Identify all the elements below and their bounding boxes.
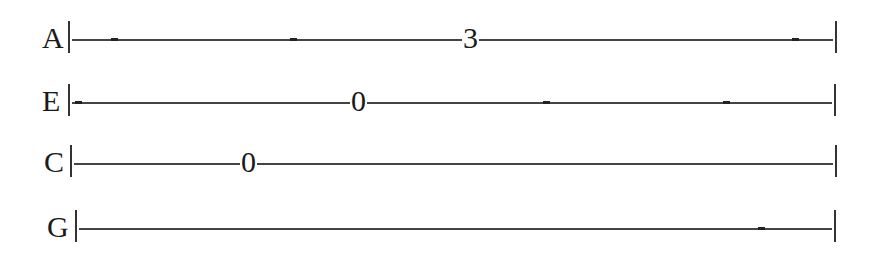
- rest-dash: [792, 38, 799, 41]
- fret-number: 3: [462, 23, 479, 53]
- string-line: [79, 228, 832, 230]
- string-e: E0: [0, 102, 874, 162]
- string-label: G: [47, 212, 69, 242]
- end-barline: [834, 210, 836, 242]
- start-barline: [68, 21, 70, 53]
- end-barline: [835, 21, 837, 53]
- fret-number: 0: [350, 86, 367, 116]
- rest-dash: [290, 38, 297, 41]
- rest-dash: [758, 227, 765, 230]
- end-barline: [835, 145, 837, 177]
- string-a: A3: [0, 39, 874, 99]
- string-line: [74, 163, 833, 165]
- string-g: G: [0, 228, 874, 265]
- string-line: [72, 39, 833, 41]
- start-barline: [70, 145, 72, 177]
- fret-number: 0: [240, 147, 257, 177]
- string-line: [72, 102, 832, 104]
- rest-dash: [723, 101, 730, 104]
- start-barline: [75, 210, 77, 242]
- rest-dash: [75, 101, 82, 104]
- rest-dash: [111, 38, 118, 41]
- rest-dash: [543, 101, 550, 104]
- string-c: C0: [0, 163, 874, 223]
- string-label: C: [44, 147, 64, 177]
- string-label: E: [42, 86, 60, 116]
- string-label: A: [42, 23, 64, 53]
- start-barline: [68, 84, 70, 116]
- end-barline: [834, 84, 836, 116]
